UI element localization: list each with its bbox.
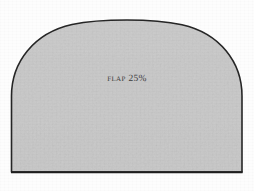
flap-shape-diagram	[0, 0, 254, 191]
figure-canvas: Flap 25%	[0, 0, 254, 191]
flap-shape-body	[0, 0, 254, 191]
flap-percentage-label: Flap 25%	[0, 74, 254, 84]
